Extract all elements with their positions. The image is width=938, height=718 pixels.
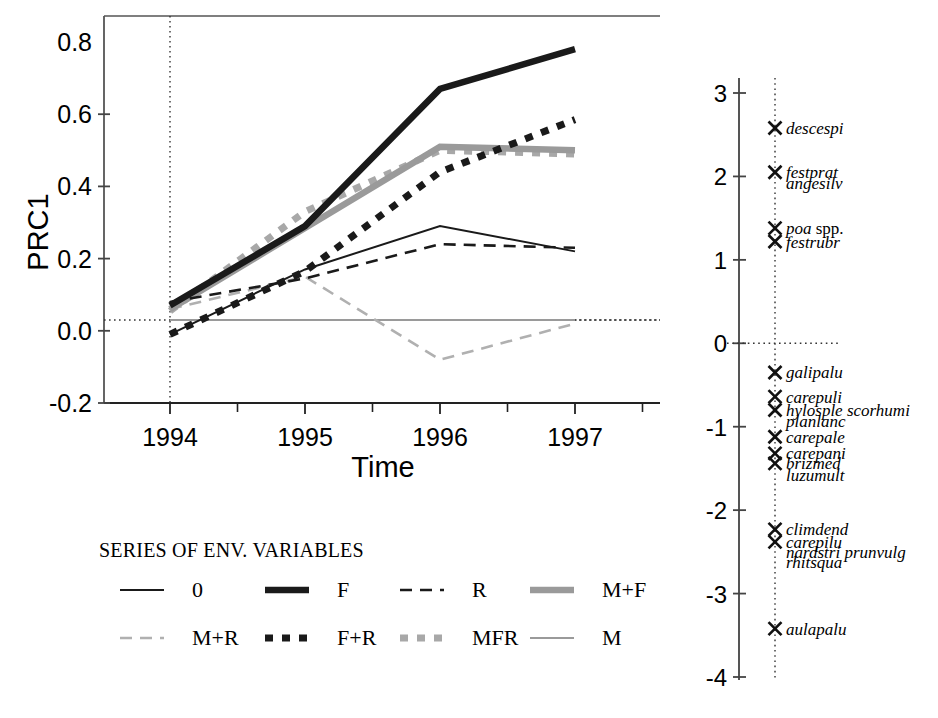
y-tick-label: 0.6: [57, 100, 92, 128]
species-label: rhitsqua: [786, 553, 842, 572]
species-label: descespi: [786, 119, 844, 138]
legend-item-label: F: [337, 577, 349, 602]
legend-item[interactable]: M+R: [120, 625, 239, 650]
legend-item-label: M+R: [192, 625, 239, 650]
species-score-axis: 3210-1-2-3-4 descespifestpratangesilvpoa…: [706, 78, 910, 691]
chart-legend: SERIES OF ENV. VARIABLES 0FRM+FM+RF+RMFR…: [99, 539, 646, 650]
legend-item-label: M+F: [602, 577, 646, 602]
species-labels: descespifestpratangesilvpoa spp.festrubr…: [785, 119, 910, 639]
species-tick-label: -1: [706, 414, 727, 441]
series-line-mfr: [170, 150, 575, 311]
species-label: luzumult: [786, 466, 846, 485]
y-axis-title: PRC1: [22, 193, 54, 270]
prc-line-chart: 0.80.60.40.20.0-0.2 1994199519961997 PRC…: [22, 16, 660, 483]
series-line-m-f: [170, 147, 575, 309]
legend-item[interactable]: 0: [120, 577, 203, 602]
species-marker-x: [769, 122, 782, 135]
x-axis-tick-labels: 1994199519961997: [142, 423, 603, 451]
species-label: festrubr: [786, 233, 840, 252]
legend-item[interactable]: M: [530, 625, 622, 650]
species-marker-x: [769, 404, 782, 417]
y-tick-label: 0.4: [57, 172, 92, 200]
series-lines: [170, 49, 660, 359]
x-axis-title: Time: [351, 451, 414, 483]
y-tick-label: 0.0: [57, 317, 92, 345]
species-tick-label: 2: [714, 163, 727, 190]
species-tick-label: 3: [714, 80, 727, 107]
x-tick-label: 1995: [277, 423, 333, 451]
species-tick-label: -2: [706, 497, 727, 524]
y-tick-label: 0.2: [57, 245, 92, 273]
legend-item-label: F+R: [337, 625, 377, 650]
y-tick-label: 0.8: [57, 28, 92, 56]
legend-item-label: 0: [192, 577, 203, 602]
species-label: angesilv: [786, 174, 843, 193]
series-line-m-r: [170, 277, 575, 360]
x-tick-label: 1997: [547, 423, 603, 451]
species-tick-label: 0: [714, 330, 727, 357]
legend-item[interactable]: R: [400, 577, 487, 602]
legend-item-label: MFR: [472, 625, 519, 650]
y-axis-tick-labels: 0.80.60.40.20.0-0.2: [49, 28, 92, 417]
legend-item[interactable]: MFR: [400, 625, 519, 650]
species-label: aulapalu: [786, 620, 846, 639]
legend-item[interactable]: F: [265, 577, 349, 602]
species-label: galipalu: [786, 363, 843, 382]
legend-item[interactable]: M+F: [530, 577, 646, 602]
prc-figure: 0.80.60.40.20.0-0.2 1994199519961997 PRC…: [0, 0, 938, 718]
species-marker-x: [769, 523, 782, 536]
figure-canvas: 0.80.60.40.20.0-0.2 1994199519961997 PRC…: [0, 0, 938, 718]
species-marker-x: [769, 235, 782, 248]
y-tick-label: -0.2: [49, 389, 92, 417]
x-tick-label: 1996: [412, 423, 468, 451]
x-tick-label: 1994: [142, 423, 198, 451]
legend-title: SERIES OF ENV. VARIABLES: [99, 539, 364, 561]
legend-item-label: M: [602, 625, 622, 650]
legend-items: 0FRM+FM+RF+RMFRM: [120, 577, 646, 650]
series-line-0: [170, 226, 575, 334]
legend-item[interactable]: F+R: [265, 625, 377, 650]
species-tick-label: -4: [706, 664, 727, 691]
legend-item-label: R: [472, 577, 487, 602]
species-axis-tick-labels: 3210-1-2-3-4: [706, 80, 727, 691]
species-tick-label: -3: [706, 581, 727, 608]
species-tick-label: 1: [714, 247, 727, 274]
species-marker-x: [769, 366, 782, 379]
x-axis-ticks: [170, 403, 643, 414]
